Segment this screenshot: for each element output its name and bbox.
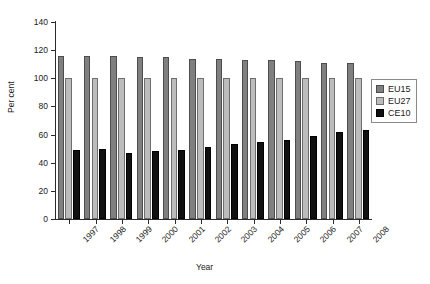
bar-eu15-2008 <box>347 63 354 219</box>
x-tick-label-2004: 2004 <box>265 224 285 244</box>
y-tick-label: 140 <box>34 18 48 27</box>
bar-group <box>267 22 293 219</box>
plot-area <box>56 22 372 219</box>
bar-eu27-2001 <box>171 78 178 219</box>
bar-eu27-1998 <box>92 78 99 219</box>
bar-ce10-2002 <box>205 147 212 219</box>
bar-eu15-2004 <box>242 60 249 219</box>
bar-group <box>161 22 187 219</box>
bar-eu15-2005 <box>268 60 275 219</box>
x-tick-label-2003: 2003 <box>239 224 259 244</box>
bar-group <box>293 22 319 219</box>
x-tick-label-2008: 2008 <box>370 224 390 244</box>
bar-eu27-1999 <box>118 78 125 219</box>
x-tick-label-2000: 2000 <box>160 224 180 244</box>
bar-eu15-1998 <box>84 56 91 219</box>
legend-label-eu27: EU27 <box>388 97 411 106</box>
bar-eu27-2005 <box>276 78 283 219</box>
legend-item-eu27[interactable]: EU27 <box>376 95 411 107</box>
bar-group <box>109 22 135 219</box>
x-tick-label-2005: 2005 <box>291 224 311 244</box>
bar-group <box>135 22 161 219</box>
legend-swatch-ce10 <box>376 109 384 117</box>
bar-chart: Per cent Year 020406080100120140 1997199… <box>0 0 430 284</box>
y-tick-label: 0 <box>43 215 48 224</box>
x-tick-mark <box>280 220 281 224</box>
bar-eu27-1997 <box>65 78 72 219</box>
bar-eu27-2000 <box>144 78 151 219</box>
x-axis-line <box>55 219 372 220</box>
bar-ce10-1997 <box>73 150 80 219</box>
x-tick-mark <box>306 220 307 224</box>
bar-group <box>240 22 266 219</box>
legend-label-eu15: EU15 <box>388 85 411 94</box>
x-tick-mark <box>148 220 149 224</box>
legend-item-ce10[interactable]: CE10 <box>376 107 411 119</box>
x-tick-mark <box>175 220 176 224</box>
bar-group <box>346 22 372 219</box>
bar-eu15-2003 <box>216 59 223 219</box>
x-tick-mark <box>254 220 255 224</box>
x-tick-mark <box>333 220 334 224</box>
bar-ce10-2001 <box>178 150 185 219</box>
bar-group <box>188 22 214 219</box>
bar-eu15-1999 <box>110 56 117 219</box>
bar-ce10-1999 <box>126 153 133 219</box>
x-tick-label-1999: 1999 <box>133 224 153 244</box>
bar-ce10-2007 <box>336 132 343 219</box>
x-axis-title: Year <box>196 262 213 272</box>
x-tick-mark <box>69 220 70 224</box>
bar-eu15-2001 <box>163 57 170 219</box>
x-tick-mark <box>96 220 97 224</box>
bar-ce10-2005 <box>284 140 291 219</box>
y-tick-label: 40 <box>39 158 48 167</box>
bar-eu15-2000 <box>137 57 144 219</box>
x-tick-label-2007: 2007 <box>344 224 364 244</box>
bar-eu27-2006 <box>302 78 309 219</box>
bar-ce10-2006 <box>310 136 317 219</box>
x-tick-mark <box>227 220 228 224</box>
x-tick-mark <box>359 220 360 224</box>
bar-eu15-2002 <box>189 59 196 219</box>
bar-ce10-2003 <box>231 144 238 219</box>
x-tick-label-1998: 1998 <box>107 224 127 244</box>
bar-ce10-2008 <box>363 130 370 219</box>
bar-eu15-2006 <box>295 61 302 219</box>
legend-label-ce10: CE10 <box>388 109 411 118</box>
bar-ce10-2004 <box>257 142 264 219</box>
x-tick-label-1997: 1997 <box>81 224 101 244</box>
bar-ce10-1998 <box>99 149 106 219</box>
y-tick-label: 100 <box>34 74 48 83</box>
y-tick-label: 60 <box>39 130 48 139</box>
y-tick-mark <box>51 219 56 220</box>
x-tick-label-2006: 2006 <box>318 224 338 244</box>
bar-group <box>56 22 82 219</box>
bar-eu27-2003 <box>223 78 230 219</box>
y-tick-label: 120 <box>34 46 48 55</box>
bar-ce10-2000 <box>152 151 159 219</box>
y-tick-label: 80 <box>39 102 48 111</box>
legend-swatch-eu15 <box>376 85 384 93</box>
bar-group <box>214 22 240 219</box>
bar-eu27-2007 <box>329 78 336 219</box>
bar-eu15-2007 <box>321 63 328 219</box>
x-tick-label-2002: 2002 <box>212 224 232 244</box>
y-tick-label: 20 <box>39 187 48 196</box>
bar-eu27-2002 <box>197 78 204 219</box>
chart-legend: EU15EU27CE10 <box>371 79 417 123</box>
bar-group <box>319 22 345 219</box>
legend-swatch-eu27 <box>376 97 384 105</box>
bar-group <box>82 22 108 219</box>
bar-eu27-2004 <box>250 78 257 219</box>
x-tick-mark <box>201 220 202 224</box>
legend-item-eu15[interactable]: EU15 <box>376 83 411 95</box>
bar-eu15-1997 <box>58 56 65 219</box>
x-tick-label-2001: 2001 <box>186 224 206 244</box>
y-axis-title: Per cent <box>6 81 16 113</box>
bar-eu27-2008 <box>355 78 362 219</box>
x-tick-mark <box>122 220 123 224</box>
